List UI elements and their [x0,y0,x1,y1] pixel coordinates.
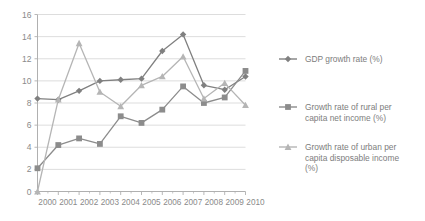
series-1 [34,31,248,103]
data-point-marker [76,40,83,46]
x-axis-tick-label: 2001 [59,198,78,207]
legend-item[interactable]: Growth rate of rural percapita net incom… [279,102,392,123]
data-point-marker [285,104,291,110]
data-point-marker [285,56,291,62]
legend-label: Growth rate of rural per [305,102,392,112]
data-point-marker [180,53,187,59]
x-axis-tick-label: 2007 [184,198,203,207]
data-point-marker [34,95,40,101]
data-point-marker [97,89,104,95]
y-axis-tick-label: 4 [27,142,32,152]
data-point-marker [55,142,61,148]
y-axis-tick-label: 12 [22,54,32,64]
legend-label: Growth rate of urban per [305,142,396,152]
x-axis-tick-label: 2002 [80,198,99,207]
data-point-marker [118,113,124,119]
legend: GDP growth rate (%)Growth rate of rural … [279,54,399,173]
x-axis-ticks [38,192,246,196]
y-axis-tick-label: 6 [27,120,32,130]
legend-label: capita disposable income [305,153,399,163]
data-point-marker [138,82,145,88]
data-point-marker [35,165,41,171]
data-point-marker [97,78,103,84]
data-point-marker [222,87,228,93]
legend-label: GDP growth rate (%) [305,54,383,64]
x-axis-tick-label: 2004 [122,198,141,207]
series-line [38,34,246,99]
line-chart: 0246810121416200020012002200320042005200… [0,0,425,221]
legend-item[interactable]: GDP growth rate (%) [279,54,383,64]
x-axis-tick-label: 2005 [142,198,161,207]
legend-label: (%) [305,163,318,173]
y-axis-tick-label: 2 [27,164,32,174]
x-axis-tick-label: 2010 [246,198,265,207]
data-point-marker [97,141,103,147]
data-point-marker [180,84,186,90]
data-point-marker [222,95,228,101]
data-point-marker [201,82,207,88]
data-point-marker [76,88,82,94]
y-axis-tick-label: 16 [22,10,32,20]
data-point-marker [159,107,165,113]
data-point-marker [76,136,82,142]
x-axis-tick-label: 2008 [205,198,224,207]
x-axis-tick-label: 2003 [101,198,120,207]
y-axis-tick-label: 0 [27,187,32,197]
y-axis-tick-label: 8 [27,98,32,108]
x-axis-tick-label: 2006 [163,198,182,207]
legend-label: capita net income (%) [305,113,386,123]
legend-item[interactable]: Growth rate of urban percapita disposabl… [279,142,399,173]
gridlines: 0246810121416 [22,10,245,197]
chart-container: 0246810121416200020012002200320042005200… [0,0,425,221]
x-axis-tick-label: 2000 [38,198,57,207]
series-3 [34,40,249,195]
data-point-marker [243,68,249,74]
y-axis-tick-label: 14 [22,32,32,42]
data-point-marker [139,120,145,126]
x-axis-tick-labels: 2000200120022003200420052006200720082009… [38,198,265,207]
x-axis-tick-label: 2009 [226,198,245,207]
data-point-marker [118,77,124,83]
y-axis-tick-label: 10 [22,76,32,86]
